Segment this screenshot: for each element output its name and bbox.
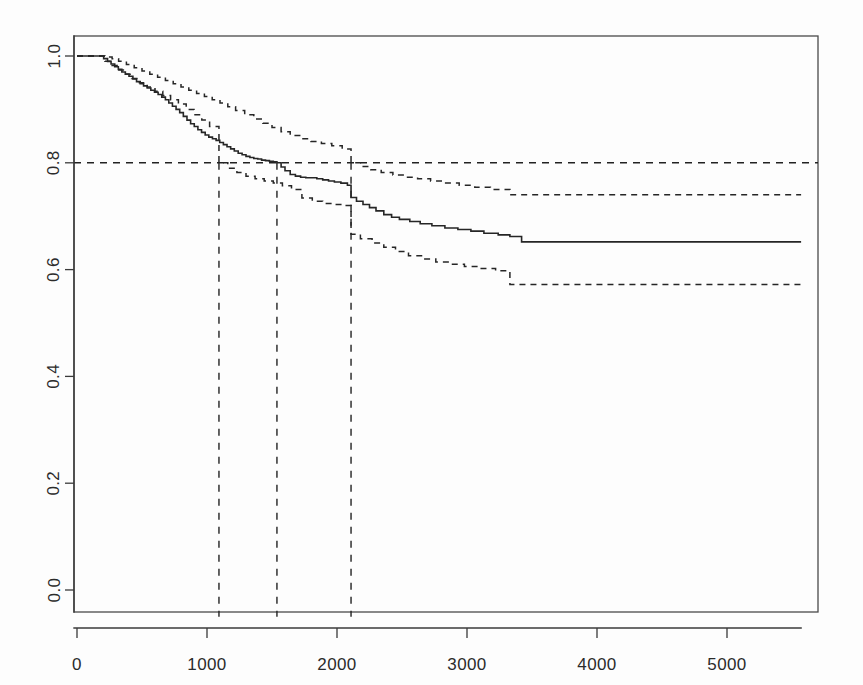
axes — [65, 36, 801, 638]
x-axis-tick-label: 3000 — [447, 655, 486, 674]
x-axis-tick-label: 4000 — [577, 655, 616, 674]
tick-labels: 0.00.20.40.60.81.0010002000300040005000 — [45, 44, 747, 674]
y-axis-tick-label: 0.2 — [45, 471, 64, 496]
reference-lines — [74, 163, 818, 617]
survival-plot-svg: 0.00.20.40.60.81.0010002000300040005000 — [0, 0, 863, 685]
y-axis-tick-label: 0.6 — [45, 257, 64, 282]
x-axis-tick-label: 0 — [72, 655, 82, 674]
y-axis-tick-label: 1.0 — [45, 44, 64, 69]
y-axis-tick-label: 0.4 — [45, 364, 64, 389]
y-axis-tick-label: 0.0 — [45, 578, 64, 603]
upper-ci-curve — [77, 56, 801, 195]
survival-curves — [77, 56, 801, 285]
survival-estimate-curve — [77, 56, 801, 242]
kaplan-meier-figure: 0.00.20.40.60.81.0010002000300040005000 — [0, 0, 863, 685]
x-axis-tick-label: 1000 — [187, 655, 226, 674]
x-axis-tick-label: 5000 — [707, 655, 746, 674]
x-axis-tick-label: 2000 — [317, 655, 356, 674]
y-axis-tick-label: 0.8 — [45, 150, 64, 175]
plot-frame — [74, 36, 818, 612]
plot-box-border — [74, 36, 818, 612]
lower-ci-curve — [77, 56, 801, 285]
